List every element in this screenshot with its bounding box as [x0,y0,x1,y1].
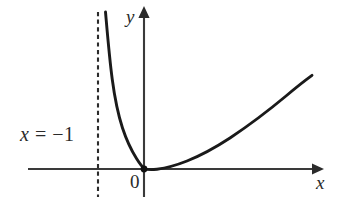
graph-canvas [0,0,338,197]
y-axis-label: y [126,7,134,26]
origin-point-marker [141,166,148,173]
graph-figure: y x 0 x = −1 [0,0,338,197]
y-axis-arrowhead [138,6,149,18]
asymptote-relation-text: = [29,123,52,145]
asymptote-equation-label: x = −1 [20,124,74,144]
asymptote-variable-text: x [20,123,29,145]
origin-label: 0 [130,172,140,191]
function-curve [106,12,313,170]
x-axis-label: x [316,173,324,192]
asymptote-value-text: −1 [52,123,74,145]
